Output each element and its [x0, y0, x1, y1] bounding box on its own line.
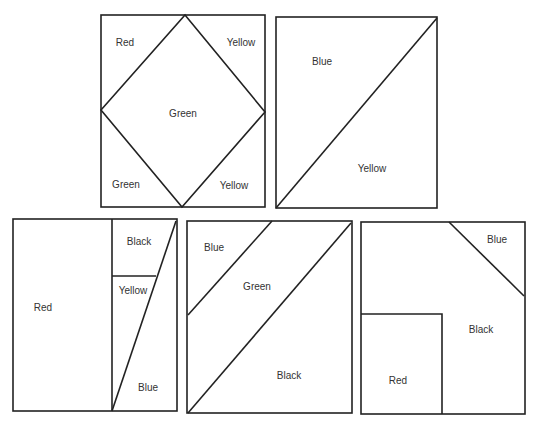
panel-1-label-green-center: Green [169, 108, 197, 119]
panel-5-label-black: Black [469, 324, 493, 335]
panel-2-label-yellow: Yellow [358, 163, 387, 174]
panel-5 [361, 222, 525, 414]
panel-4-label-green: Green [243, 281, 271, 292]
panel-4-diagonal-upper [188, 221, 272, 315]
panel-3-label-blue: Blue [138, 382, 158, 393]
panel-5-label-blue: Blue [487, 234, 507, 245]
panel-3-label-yellow: Yellow [119, 285, 148, 296]
panel-1-label-yellow-bottom: Yellow [220, 180, 249, 191]
panel-3-label-red: Red [34, 302, 52, 313]
panel-5-inner-square [361, 314, 442, 414]
panel-1-label-red: Red [116, 37, 134, 48]
diagram-canvas [0, 0, 541, 427]
panel-5-frame [361, 222, 525, 414]
panel-2 [276, 17, 437, 208]
panel-2-diagonal [276, 18, 437, 208]
panel-4-label-blue: Blue [204, 242, 224, 253]
panel-2-label-blue: Blue [312, 56, 332, 67]
panel-3-label-black: Black [127, 236, 151, 247]
panel-1-label-yellow-top: Yellow [227, 37, 256, 48]
panel-1-label-green-bottom: Green [112, 179, 140, 190]
panel-5-label-red: Red [389, 375, 407, 386]
panel-4-label-black: Black [277, 370, 301, 381]
